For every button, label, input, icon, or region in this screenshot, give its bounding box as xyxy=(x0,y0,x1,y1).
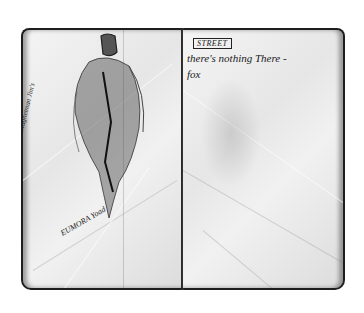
pencil-figure-icon xyxy=(63,32,153,222)
sketchbook: At Magnetman Jim's EUMORA Yoad STREET th… xyxy=(21,28,345,290)
right-page: STREET there's nothing There - fox xyxy=(182,28,345,290)
note-line-2: fox xyxy=(187,68,200,80)
street-label: STREET xyxy=(193,38,232,49)
pencil-smudge xyxy=(201,78,261,188)
figure-sketch xyxy=(63,32,153,222)
paper-crease xyxy=(183,170,345,266)
paper-crease xyxy=(203,230,296,290)
left-page: At Magnetman Jim's EUMORA Yoad xyxy=(21,28,183,290)
caption-vertical: At Magnetman Jim's xyxy=(21,82,37,140)
elastic-band xyxy=(344,235,345,275)
note-line-1: there's nothing There - xyxy=(187,52,287,64)
